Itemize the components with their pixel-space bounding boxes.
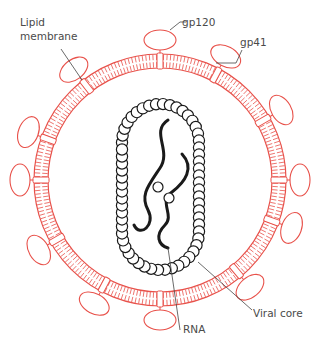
core-bead <box>116 144 127 155</box>
label-rna: RNA <box>183 323 205 335</box>
label-gp120: gp120 <box>182 16 215 28</box>
label-lipid-membrane-line2: membrane <box>20 30 77 42</box>
enzyme-bead-1 <box>153 182 163 192</box>
gp120-gp41-knob <box>144 30 176 69</box>
enzyme-bead-2 <box>164 193 174 203</box>
rna-strand-1 <box>134 120 168 230</box>
gp120-gp41-knob <box>10 164 49 196</box>
gp120-gp41-knob <box>144 291 176 330</box>
hiv-virion-diagram <box>0 0 320 350</box>
gp120-gp41-knob <box>271 164 310 196</box>
gp120-gp41-knob <box>219 255 269 305</box>
label-viral-core: Viral core <box>253 307 303 319</box>
rna-strands <box>134 120 188 248</box>
label-gp41: gp41 <box>240 36 267 48</box>
label-lipid-membrane-line1: Lipid <box>20 16 45 28</box>
glycoprotein-knobs <box>10 30 310 330</box>
